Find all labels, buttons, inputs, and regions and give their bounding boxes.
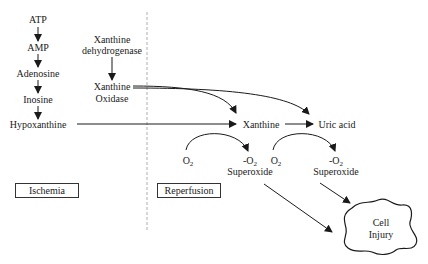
superoxide-label-1: Superoxide	[227, 166, 273, 177]
ischemia-box: Ischemia	[15, 183, 79, 198]
arrow-o2-superoxide-2	[273, 134, 335, 151]
cell-injury-label-1: Cell	[373, 217, 390, 228]
inosine-label: Inosine	[23, 94, 52, 105]
arrow-superoxide-2-injury	[320, 183, 350, 203]
superoxide-symbol-2: -O2	[329, 155, 343, 166]
uric-acid-label: Uric acid	[319, 119, 356, 130]
ischemia-reperfusion-diagram: ATP AMP Adenosine Inosine Hypoxanthine X…	[0, 0, 428, 264]
hypoxanthine-label: Hypoxanthine	[10, 119, 67, 130]
atp-label: ATP	[29, 14, 47, 25]
superoxide-symbol-1: -O2	[243, 155, 257, 166]
diagram-arrows	[0, 0, 428, 264]
xanthine-oxidase-label-2: Oxidase	[96, 93, 129, 104]
arrow-oxidase-uric-acid	[133, 88, 309, 114]
xanthine-label: Xanthine	[243, 119, 280, 130]
reperfusion-box: Reperfusion	[157, 183, 221, 198]
xanthine-dehydrogenase-label-2: dehydrogenase	[82, 45, 142, 56]
arrow-superoxide-1-injury	[264, 184, 332, 232]
arrow-o2-superoxide-1	[186, 134, 248, 151]
adenosine-label: Adenosine	[17, 68, 60, 79]
xanthine-dehydrogenase-label-1: Xanthine	[94, 34, 131, 45]
superoxide-label-2: Superoxide	[313, 166, 359, 177]
o2-label-2: O2	[271, 155, 282, 166]
xanthine-oxidase-label-1: Xanthine	[94, 81, 131, 92]
arrow-oxidase-xanthine	[133, 86, 236, 113]
cell-injury-label-2: Injury	[369, 229, 393, 240]
amp-label: AMP	[27, 42, 49, 53]
o2-label-1: O2	[183, 155, 194, 166]
